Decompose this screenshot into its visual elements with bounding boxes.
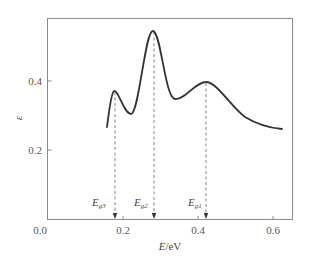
x-tick-label-0.2: 0.2 [116,224,130,236]
epsilon-curve [107,31,282,129]
x-axis-label: E/eV [158,240,182,252]
arrow-down-icon [204,213,208,219]
annotation-eg1-sub: g1 [195,202,202,210]
annotation-eg1: Eg1 [187,196,202,210]
chart: 0.4 0.2 0.0 0.2 0.4 0.6 E/eV ε Eg3 Eg2 E… [0,0,326,265]
arrow-down-icon [113,213,117,219]
annotation-eg2: Eg2 [133,196,148,210]
y-tick-label-0.2: 0.2 [28,144,42,156]
plot-frame [48,19,293,220]
annotation-eg3-sub: g3 [99,202,107,210]
y-tick-label-0.4: 0.4 [28,75,42,87]
x-tick-label-0.4: 0.4 [191,224,205,236]
x-tick-label-0.0: 0.0 [33,224,47,236]
annotation-eg3: Eg3 [91,196,106,210]
x-tick-label-0.6: 0.6 [266,224,280,236]
arrow-down-icon [152,213,156,219]
x-axis-label-unit: /eV [165,240,181,252]
annotation-eg2-sub: g2 [141,202,149,210]
y-axis-label: ε [12,115,24,120]
